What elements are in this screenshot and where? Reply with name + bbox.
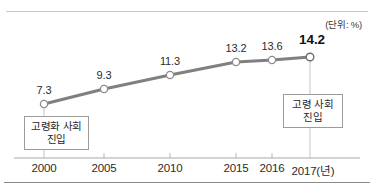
x-axis-label-2000: 2000 — [32, 162, 57, 174]
annotation-callout-aged-society: 고령 사회 진입 — [283, 94, 343, 128]
data-point-marker — [100, 85, 107, 92]
callout-line-2: 진입 — [25, 133, 88, 146]
x-axis-label-2005: 2005 — [92, 162, 117, 174]
callout-line-1: 고령 사회 — [284, 98, 342, 111]
callout-line-1: 고령화 사회 — [25, 120, 88, 133]
value-label: 7.3 — [37, 84, 52, 96]
value-label: 13.2 — [225, 42, 246, 54]
value-label-emphasized: 14.2 — [299, 32, 325, 47]
callout-line-2: 진입 — [284, 111, 342, 124]
bottom-divider-rule — [4, 182, 370, 183]
data-point-marker — [166, 71, 173, 78]
chart-figure: (단위: %) 7.3 9.3 11.3 13.2 13.6 14.2 2000… — [0, 0, 374, 193]
x-axis-label-2010: 2010 — [158, 162, 183, 174]
annotation-callout-aging-society: 고령화 사회 진입 — [24, 116, 89, 150]
value-label: 13.6 — [261, 40, 282, 52]
x-axis-label-2016: 2016 — [260, 162, 285, 174]
value-label: 9.3 — [97, 69, 112, 81]
value-label: 11.3 — [160, 55, 180, 67]
x-axis-label-2017: 2017(년) — [292, 162, 335, 178]
data-point-marker — [268, 56, 275, 63]
data-point-marker-emphasized — [306, 53, 314, 61]
x-axis-label-2015: 2015 — [224, 162, 249, 174]
data-point-marker — [232, 58, 239, 65]
data-point-marker — [40, 100, 47, 107]
